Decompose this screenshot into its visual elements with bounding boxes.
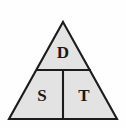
triangle-cell-distance: D [36,22,91,70]
speed-label: S [37,86,46,105]
time-cell-region [63,70,117,119]
diagram-canvas: D S T [0,0,126,128]
distance-label: D [57,43,69,62]
speed-cell-region [9,70,63,119]
time-label: T [78,86,90,105]
formula-triangle-diagram: D S T [0,0,126,128]
triangle-cell-time: T [63,70,117,119]
triangle-cell-speed: S [9,70,63,119]
